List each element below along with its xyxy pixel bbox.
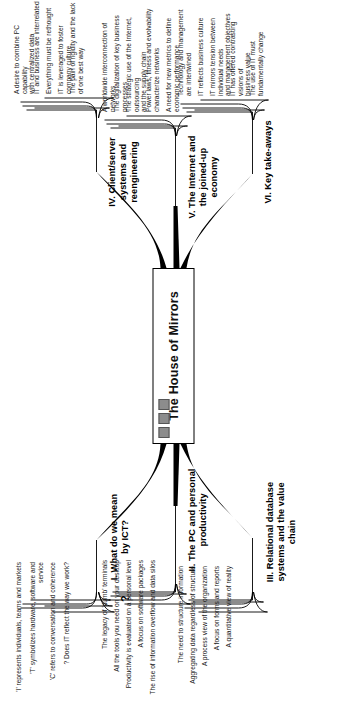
center-node-chips	[158, 399, 169, 438]
branch-v-leaf-3[interactable]: The strategic use of the Internet, outso…	[124, 0, 147, 112]
branch-ii-leaf-3[interactable]: Productivity is evaluated on a personal …	[124, 560, 132, 712]
branch-vi-leaf-2[interactable]: IT reflects business culture	[196, 0, 204, 96]
rib-iv-3	[26, 110, 96, 118]
branch-ii-leaf-2[interactable]: All the tools you need on your desktop	[112, 560, 120, 712]
trunk-ii	[173, 444, 179, 506]
branch-vi-leaf-4[interactable]: IT has offered contrasting visions of bu…	[228, 0, 251, 96]
chip-1-icon	[158, 427, 169, 438]
chip-3-icon	[158, 399, 169, 410]
branch-ii-leaf-1[interactable]: The legacy of 'dumb' terminals	[100, 560, 108, 712]
mindmap-rotator: The House of Mirrors I. What do we mean …	[0, 0, 345, 712]
branch-iii-title[interactable]: III. Relational database systems and the…	[264, 470, 298, 594]
branch-v-leaf-4[interactable]: Power laws, fitness and evolvability cha…	[144, 0, 159, 112]
branch-iii-leaf-4[interactable]: A focus on forms and reports	[212, 566, 220, 712]
branch-i-leaf-2[interactable]: 'T' symbolizes hardware, software and se…	[28, 562, 43, 712]
branch-iii-leaf-1[interactable]: The need to structure information	[176, 566, 184, 712]
branch-iii-leaf-5[interactable]: A quantitative view of reality	[224, 566, 232, 712]
branch-iii-leaf-2[interactable]: Aggregating data regardless of structure	[188, 566, 196, 712]
trunk-i	[96, 444, 166, 540]
branch-iv-leaf-2[interactable]: IT and business are interrelated	[32, 0, 40, 94]
branch-vi-title[interactable]: VI. Key take-aways	[262, 110, 273, 214]
chip-2-icon	[158, 413, 169, 424]
rib-iv-4	[34, 108, 109, 118]
branch-vi-leaf-3[interactable]: IT mirrors tension between individual ne…	[208, 0, 231, 96]
branch-iv-leaf-1[interactable]: A desire to combine PC capability with c…	[12, 0, 35, 94]
branch-ii-leaf-5[interactable]: The rise of information overflow and dat…	[148, 560, 156, 712]
branch-i-leaf-4[interactable]: ? Does IT reflect the way we work?	[62, 562, 70, 712]
branch-vi-leaf-5[interactable]: The use of IT must fundamentally change	[248, 0, 263, 96]
branch-iv-title[interactable]: IV. Client/server systems and reengineer…	[106, 116, 140, 228]
trunk-v	[173, 206, 179, 268]
branch-iv-leaf-3[interactable]: Everything must be rethought	[44, 0, 52, 94]
branch-ii-leaf-4[interactable]: A focus on software packages	[136, 560, 144, 712]
branch-iii-leaf-3[interactable]: A process view of the organization	[200, 566, 208, 712]
rib-vi-3	[186, 112, 252, 120]
mindmap-canvas: The House of Mirrors I. What do we mean …	[0, 0, 345, 712]
branch-ii-title[interactable]: II. The PC and personal productivity	[186, 460, 208, 580]
branch-v-title[interactable]: V. The Internet and the joined-up econom…	[186, 120, 220, 234]
branch-i-leaf-3[interactable]: 'C' refers to conversation and coherence	[48, 562, 56, 712]
branch-i-leaf-1[interactable]: 'I' represents individuals, teams and ma…	[14, 562, 22, 712]
branch-iv-leaf-5[interactable]: The pain of rigidity and the lack of one…	[68, 0, 83, 94]
branch-vi-leaf-1[interactable]: Technology and management are intertwine…	[176, 0, 191, 96]
